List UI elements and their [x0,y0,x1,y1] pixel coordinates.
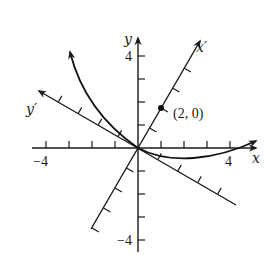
point-label: (2, 0) [173,106,204,122]
y-axis-label: y [123,31,133,47]
x-axis [32,141,256,148]
point-2-0: (2, 0) [158,105,204,122]
x-tick-label-4: 4 [225,154,232,169]
point-marker [158,105,164,111]
rotated-axes-diagram: (2, 0) x y x′ y′ 4 −4 4 −4 [0,0,270,267]
x-prime-axis [91,41,200,232]
y-tick-label-neg4: −4 [117,233,132,248]
y-prime-axis-label: y′ [25,101,38,117]
x-tick-label-neg4: −4 [33,154,48,169]
x-prime-axis-label: x′ [196,39,208,55]
y-tick-label-4: 4 [125,49,132,64]
x-axis-label: x [252,150,260,166]
